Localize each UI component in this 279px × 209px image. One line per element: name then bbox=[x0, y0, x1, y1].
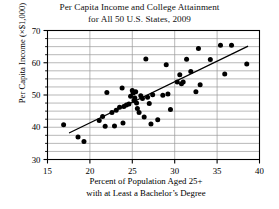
data-point bbox=[193, 89, 198, 94]
data-point bbox=[76, 134, 81, 139]
data-point bbox=[218, 43, 223, 48]
data-point bbox=[181, 80, 186, 85]
data-point bbox=[148, 122, 153, 127]
data-point bbox=[208, 57, 213, 62]
y-tick-label: 50 bbox=[32, 90, 41, 100]
data-point bbox=[160, 93, 165, 98]
y-axis-label-text: Per Capita Income (×$1,000) bbox=[17, 3, 27, 103]
data-point bbox=[150, 92, 155, 97]
x-axis-label: Percent of Population Aged 25+ with at L… bbox=[30, 176, 262, 199]
data-point bbox=[147, 101, 152, 106]
data-point bbox=[117, 105, 122, 110]
data-point bbox=[132, 95, 137, 100]
data-point bbox=[126, 102, 131, 107]
axis-tick-labels: 3040506070152025303540 bbox=[32, 26, 265, 176]
data-point bbox=[97, 118, 102, 123]
data-point bbox=[103, 124, 108, 129]
x-tick-label: 20 bbox=[86, 166, 95, 176]
y-tick-label: 60 bbox=[32, 58, 41, 68]
data-points bbox=[61, 43, 249, 144]
data-point bbox=[120, 121, 125, 126]
x-tick-label: 40 bbox=[255, 166, 264, 176]
data-point bbox=[112, 123, 117, 128]
x-tick-label: 25 bbox=[128, 166, 137, 176]
data-point bbox=[198, 82, 203, 87]
chart-figure: Per Capita Income and College Attainment… bbox=[0, 0, 279, 209]
data-point bbox=[155, 117, 160, 122]
data-point bbox=[165, 92, 170, 97]
data-point bbox=[61, 122, 66, 127]
data-point bbox=[222, 72, 227, 77]
data-point bbox=[109, 110, 114, 115]
data-point bbox=[143, 56, 148, 61]
data-point bbox=[164, 62, 169, 67]
data-point bbox=[81, 139, 86, 144]
data-point bbox=[177, 72, 182, 77]
data-point bbox=[137, 110, 142, 115]
data-point bbox=[244, 62, 249, 67]
data-point bbox=[142, 114, 147, 119]
data-point bbox=[120, 85, 125, 90]
data-point bbox=[145, 95, 150, 100]
y-tick-label: 40 bbox=[32, 122, 41, 132]
x-tick-label: 15 bbox=[43, 166, 52, 176]
data-point bbox=[104, 90, 109, 95]
data-point bbox=[196, 46, 201, 51]
data-point bbox=[168, 107, 173, 112]
data-point bbox=[133, 89, 138, 94]
x-axis-label-line-1: Percent of Population Aged 25+ bbox=[30, 176, 262, 188]
data-point bbox=[229, 43, 234, 48]
data-point bbox=[100, 114, 105, 119]
data-point bbox=[184, 57, 189, 62]
data-point bbox=[134, 101, 139, 106]
y-axis-label: Per Capita Income (×$1,000) bbox=[15, 0, 29, 123]
data-point bbox=[188, 69, 193, 74]
x-tick-label: 35 bbox=[213, 166, 222, 176]
y-tick-label: 30 bbox=[32, 155, 41, 165]
y-tick-label: 70 bbox=[32, 26, 41, 36]
x-tick-label: 30 bbox=[170, 166, 179, 176]
data-point bbox=[140, 96, 145, 101]
x-axis-label-line-2: with at Least a Bachelor’s Degree bbox=[30, 188, 262, 200]
